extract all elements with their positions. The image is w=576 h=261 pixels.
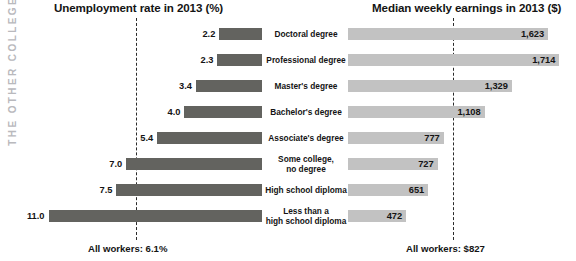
earnings-bar-group: 1,623 [348, 28, 548, 40]
unemployment-value-label: 4.0 [167, 107, 180, 117]
earnings-value-label: 651 [409, 185, 425, 195]
earnings-bar: 1,714 [348, 54, 559, 66]
table-row: 3.4 [0, 73, 288, 99]
table-row: 1,108 [288, 99, 576, 125]
earnings-bar-group: 727 [348, 158, 438, 170]
unemployment-bar-group: 3.4 [179, 80, 262, 92]
table-row: 1,623 [288, 21, 576, 47]
earnings-value-label: 777 [424, 133, 440, 143]
unemployment-bar-group: 4.0 [167, 106, 262, 118]
unemployment-bar-group: 7.5 [99, 184, 262, 196]
unemployment-bar [126, 158, 262, 170]
table-row: 4.0 [0, 99, 288, 125]
earnings-bar: 727 [348, 158, 438, 170]
table-row: 7.0 [0, 151, 288, 177]
unemployment-bar-group: 2.2 [202, 28, 262, 40]
earnings-value-label: 1,714 [532, 55, 555, 65]
table-row: 1,329 [288, 73, 576, 99]
earnings-bar-group: 651 [348, 184, 428, 196]
unemployment-value-label: 3.4 [179, 81, 192, 91]
unemployment-bar [157, 132, 262, 144]
earnings-bar: 472 [348, 210, 406, 222]
earnings-bar: 1,329 [348, 80, 512, 92]
unemployment-bar-group: 11.0 [27, 210, 262, 222]
unemployment-bar-rows: 2.22.33.44.05.47.07.511.0 [0, 18, 288, 240]
earnings-bar-group: 472 [348, 210, 406, 222]
right-chart-title: Median weekly earnings in 2013 ($) [372, 1, 561, 14]
table-row: 2.3 [0, 47, 288, 73]
table-row: 2.2 [0, 21, 288, 47]
unemployment-bar [217, 54, 262, 66]
earnings-chart: 1,6231,7141,3291,108777727651472 [288, 18, 576, 240]
unemployment-value-label: 7.5 [99, 185, 112, 195]
earnings-value-label: 1,108 [457, 107, 480, 117]
unemployment-bar-group: 2.3 [200, 54, 262, 66]
unemployment-bar [219, 28, 262, 40]
unemployment-average-label: All workers: 6.1% [88, 243, 167, 254]
earnings-bar-rows: 1,6231,7141,3291,108777727651472 [288, 18, 576, 240]
earnings-value-label: 472 [387, 211, 403, 221]
unemployment-value-label: 7.0 [109, 159, 122, 169]
earnings-bar-group: 777 [348, 132, 444, 144]
earnings-bar: 1,623 [348, 28, 548, 40]
table-row: 472 [288, 203, 576, 229]
unemployment-value-label: 2.3 [200, 55, 213, 65]
unemployment-value-label: 5.4 [140, 133, 153, 143]
earnings-bar: 651 [348, 184, 428, 196]
unemployment-value-label: 2.2 [202, 29, 215, 39]
unemployment-bar [116, 184, 262, 196]
earnings-value-label: 727 [418, 159, 434, 169]
unemployment-bar [49, 210, 263, 222]
left-chart-title: Unemployment rate in 2013 (%) [54, 1, 223, 14]
earnings-bar-group: 1,329 [348, 80, 512, 92]
earnings-average-label: All workers: $827 [406, 243, 485, 254]
table-row: 7.5 [0, 177, 288, 203]
table-row: 651 [288, 177, 576, 203]
earnings-value-label: 1,329 [485, 81, 508, 91]
table-row: 5.4 [0, 125, 288, 151]
unemployment-bar-group: 5.4 [140, 132, 262, 144]
unemployment-bar-group: 7.0 [109, 158, 262, 170]
table-row: 777 [288, 125, 576, 151]
unemployment-bar [196, 80, 262, 92]
table-row: 727 [288, 151, 576, 177]
unemployment-value-label: 11.0 [27, 211, 45, 221]
earnings-bar-group: 1,108 [348, 106, 485, 118]
table-row: 1,714 [288, 47, 576, 73]
unemployment-bar [184, 106, 262, 118]
table-row: 11.0 [0, 203, 288, 229]
earnings-bar: 1,108 [348, 106, 485, 118]
earnings-bar: 777 [348, 132, 444, 144]
earnings-bar-group: 1,714 [348, 54, 559, 66]
earnings-value-label: 1,623 [521, 29, 544, 39]
unemployment-chart: 2.22.33.44.05.47.07.511.0 [0, 18, 288, 240]
